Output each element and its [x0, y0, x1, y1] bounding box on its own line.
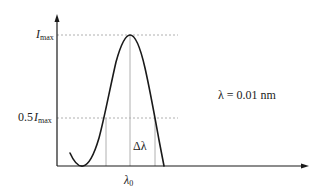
x-axis-arrow-icon	[301, 164, 309, 169]
linewidth-annotation: λ = 0.01 nm	[218, 89, 276, 101]
delta-lambda-label: Δλ	[133, 140, 147, 152]
intensity-curve	[70, 35, 164, 166]
imax-subscript: max	[40, 33, 54, 42]
lambda0-subscript: 0	[129, 179, 133, 188]
imax-label: Imax	[36, 28, 54, 42]
line-profile-diagram: Imax 0.5 Imax λ0 Δλ λ = 0.01 nm	[0, 0, 326, 193]
lambda0-label: λ0	[124, 174, 133, 188]
halfmax-subscript: max	[38, 116, 52, 125]
halfmax-prefix: 0.5	[18, 110, 33, 124]
halfmax-label: 0.5 Imax	[18, 111, 52, 125]
y-axis-arrow-icon	[55, 14, 60, 22]
